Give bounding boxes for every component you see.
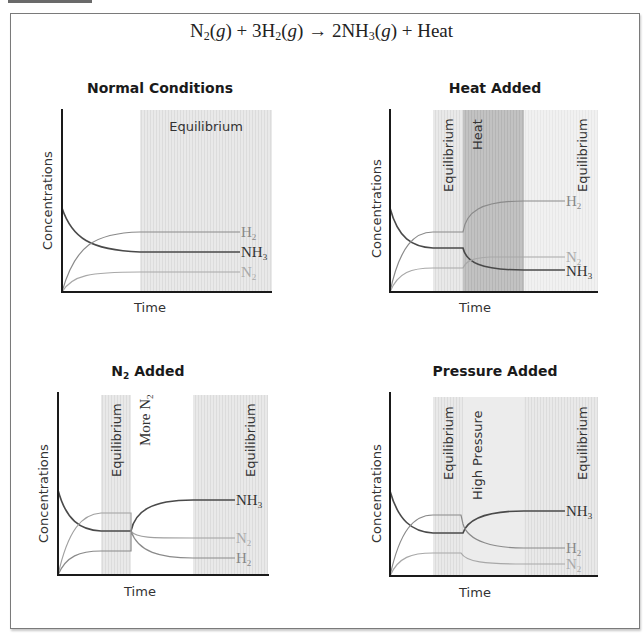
band-label-high-pressure: High Pressure [470, 410, 485, 500]
band-label-equilibrium: Equilibrium [441, 406, 456, 480]
band-label-equilibrium-2: Equilibrium [575, 118, 590, 192]
equilibrium-band [140, 110, 272, 292]
x-axis-label: Time [123, 584, 156, 599]
band-label-equilibrium: Equilibrium [169, 119, 243, 134]
y-axis-label: Concentrations [36, 444, 51, 543]
chart-pressure-added: Pressure Added Equilibrium High Pressure… [369, 363, 598, 600]
x-axis-label: Time [458, 585, 491, 600]
y-axis-label: Concentrations [40, 151, 55, 250]
band-label-equilibrium: Equilibrium [109, 403, 124, 477]
y-axis-label: Concentrations [369, 159, 384, 258]
chart-title: N2 Added [111, 363, 184, 381]
x-axis-label: Time [458, 300, 491, 315]
chart-title: Normal Conditions [87, 80, 233, 96]
band-label-heat: Heat [470, 119, 485, 150]
chart-normal-conditions: Normal Conditions Equilibrium H2 NH3 N2 … [40, 80, 272, 315]
chart-n2-added: N2 Added Equilibrium More N2 Equilibrium… [36, 363, 269, 599]
chart-title: Pressure Added [433, 363, 558, 379]
chart-heat-added: Heat Added Equilibrium Heat Equilibrium … [369, 80, 598, 315]
charts-canvas: Normal Conditions Equilibrium H2 NH3 N2 … [0, 0, 643, 639]
x-axis-label: Time [133, 300, 166, 315]
band-label-equilibrium-2: Equilibrium [243, 403, 258, 477]
chart-title: Heat Added [449, 80, 542, 96]
y-axis-label: Concentrations [369, 444, 384, 543]
band-label-equilibrium-2: Equilibrium [575, 406, 590, 480]
band-label-more-n2: More N2 [137, 394, 155, 446]
band-label-equilibrium: Equilibrium [441, 118, 456, 192]
